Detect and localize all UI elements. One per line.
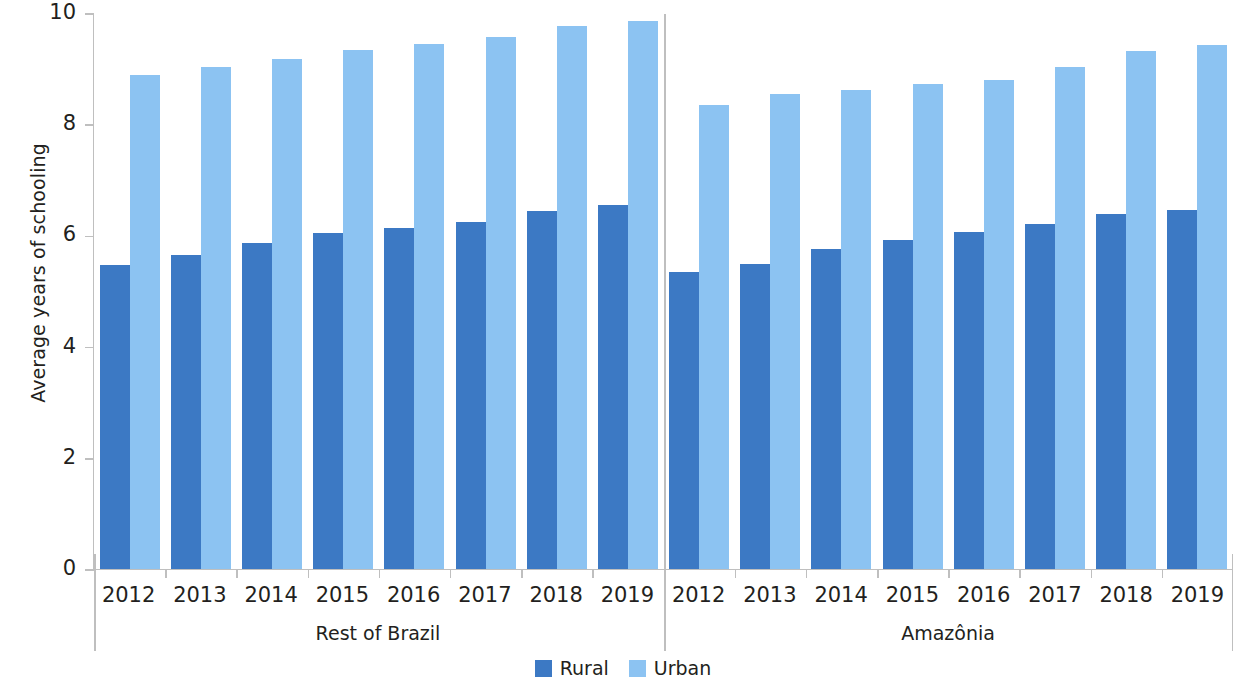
y-tick-label: 2 [42, 445, 76, 469]
x-axis-label-2012: 2012 [663, 578, 734, 612]
bar-pair-2014 [806, 14, 877, 569]
bar-pair-2014 [236, 14, 307, 569]
bar-rural-2014[interactable] [242, 243, 272, 569]
bar-pair-2019 [592, 14, 663, 569]
bar-urban-2018[interactable] [557, 26, 587, 569]
bar-urban-2017[interactable] [486, 37, 516, 569]
bar-pair-2017 [1019, 14, 1090, 569]
x-tick-mark [379, 569, 381, 578]
x-tick-mark [165, 569, 167, 578]
y-tick-mark [85, 124, 94, 126]
bar-urban-2017[interactable] [1055, 67, 1085, 569]
plot-area: 1086420 [93, 14, 1233, 570]
y-axis-title: Average years of schooling [27, 123, 49, 423]
bar-pair-2013 [165, 14, 236, 569]
bar-urban-2015[interactable] [913, 84, 943, 569]
bar-pair-2017 [450, 14, 521, 569]
x-axis-label-2013: 2013 [734, 578, 805, 612]
x-tick-mark [1091, 569, 1093, 578]
x-tick-mark [877, 569, 879, 578]
bar-urban-2016[interactable] [984, 80, 1014, 569]
bar-pair-2015 [308, 14, 379, 569]
bar-urban-2014[interactable] [272, 59, 302, 569]
legend-item-urban[interactable]: Urban [629, 657, 711, 679]
bar-rural-2015[interactable] [883, 240, 913, 569]
x-tick-mark [1019, 569, 1021, 578]
x-axis-year-labels: 2012201320142015201620172018201920122013… [93, 578, 1233, 612]
bar-rural-2012[interactable] [100, 265, 130, 569]
y-tick-label: 10 [42, 0, 76, 24]
x-axis-label-2015: 2015 [877, 578, 948, 612]
y-tick-label: 0 [42, 556, 76, 580]
bar-rural-2016[interactable] [384, 228, 414, 569]
x-tick-mark [735, 569, 737, 578]
bar-urban-2012[interactable] [130, 75, 160, 569]
x-axis-label-2019: 2019 [1162, 578, 1233, 612]
bar-urban-2013[interactable] [770, 94, 800, 569]
legend-item-rural[interactable]: Rural [535, 657, 609, 679]
x-tick-mark [806, 569, 808, 578]
x-axis-label-2018: 2018 [521, 578, 592, 612]
bar-pair-2012 [94, 14, 165, 569]
x-tick-mark [236, 569, 238, 578]
year-label-group: 20122013201420152016201720182019 [93, 578, 663, 612]
bar-rural-2015[interactable] [313, 233, 343, 569]
x-tick-mark [1162, 569, 1164, 578]
bar-pair-2018 [1091, 14, 1162, 569]
y-tick-mark [85, 347, 94, 349]
x-tick-mark [308, 569, 310, 578]
x-tick-mark [521, 569, 523, 578]
bar-pair-2019 [1162, 14, 1233, 569]
bar-rural-2017[interactable] [1025, 224, 1055, 569]
bar-rural-2012[interactable] [669, 272, 699, 569]
legend-label: Urban [654, 657, 711, 679]
x-axis-label-2019: 2019 [592, 578, 663, 612]
x-axis-label-2017: 2017 [449, 578, 520, 612]
bar-chart: Average years of schooling 1086420 20122… [0, 0, 1246, 686]
bar-rural-2019[interactable] [1167, 210, 1197, 569]
bar-rural-2013[interactable] [740, 264, 770, 569]
bar-rural-2013[interactable] [171, 255, 201, 569]
y-tick-mark [85, 569, 94, 571]
legend-swatch-icon [629, 660, 646, 677]
bar-urban-2016[interactable] [414, 44, 444, 569]
x-axis-label-2016: 2016 [948, 578, 1019, 612]
bar-pair-2012 [664, 14, 735, 569]
bar-rural-2017[interactable] [456, 222, 486, 569]
bar-pair-2018 [521, 14, 592, 569]
y-tick-mark [85, 13, 94, 15]
bar-rural-2018[interactable] [1096, 214, 1126, 569]
bar-urban-2013[interactable] [201, 67, 231, 569]
bar-rural-2016[interactable] [954, 232, 984, 569]
x-axis-label-2018: 2018 [1091, 578, 1162, 612]
bar-urban-2012[interactable] [699, 105, 729, 569]
group-name-label: Amazônia [663, 617, 1233, 649]
x-tick-mark [450, 569, 452, 578]
chart-legend: RuralUrban [0, 657, 1246, 679]
y-tick-label: 8 [42, 111, 76, 135]
bar-pair-2016 [379, 14, 450, 569]
bar-urban-2019[interactable] [628, 21, 658, 569]
legend-swatch-icon [535, 660, 552, 677]
bar-urban-2019[interactable] [1197, 45, 1227, 569]
x-axis-group-labels: Rest of BrazilAmazônia [93, 617, 1233, 649]
y-tick-label: 4 [42, 334, 76, 358]
bar-rural-2018[interactable] [527, 211, 557, 569]
group-divider [664, 14, 666, 651]
x-tick-mark [948, 569, 950, 578]
bar-urban-2018[interactable] [1126, 51, 1156, 569]
bar-rural-2014[interactable] [811, 249, 841, 569]
bar-urban-2014[interactable] [841, 90, 871, 569]
bar-group [664, 14, 1234, 569]
bar-pair-2016 [948, 14, 1019, 569]
group-name-label: Rest of Brazil [93, 617, 663, 649]
bar-urban-2015[interactable] [343, 50, 373, 569]
x-axis-label-2014: 2014 [806, 578, 877, 612]
y-tick-mark [85, 458, 94, 460]
x-axis-label-2012: 2012 [93, 578, 164, 612]
bar-rural-2019[interactable] [598, 205, 628, 569]
x-axis-label-2016: 2016 [378, 578, 449, 612]
x-tick-mark [592, 569, 594, 578]
legend-label: Rural [560, 657, 609, 679]
x-axis-label-2014: 2014 [236, 578, 307, 612]
